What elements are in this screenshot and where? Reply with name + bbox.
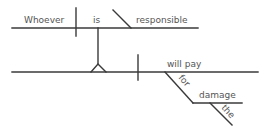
word-is: is	[93, 15, 101, 25]
word-whoever: Whoever	[24, 15, 65, 25]
word-will-pay: will pay	[167, 59, 202, 69]
word-damage: damage	[199, 90, 236, 100]
word-the: the	[220, 103, 238, 121]
sentence-diagram: Whoever is responsible will pay for dama…	[0, 0, 264, 135]
word-responsible: responsible	[136, 15, 188, 25]
main-clause: will pay for damage the	[12, 55, 258, 125]
pedestal	[91, 28, 106, 72]
subject-clause: Whoever is responsible	[12, 8, 198, 36]
pedestal-base	[91, 64, 106, 72]
word-for: for	[177, 73, 193, 89]
complement-slant	[113, 10, 131, 28]
